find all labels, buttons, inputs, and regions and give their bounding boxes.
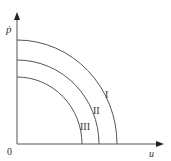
curve-label-II: II bbox=[93, 105, 100, 116]
curve-I bbox=[17, 40, 117, 144]
y-axis-arrow-icon bbox=[14, 12, 20, 20]
diagram-canvas: ṗ u 0 I II III bbox=[0, 0, 171, 161]
curve-III bbox=[17, 77, 82, 144]
curve-label-I: I bbox=[105, 89, 108, 100]
curve-label-III: III bbox=[80, 121, 90, 132]
x-axis-arrow-icon bbox=[156, 141, 164, 147]
x-axis-label: u bbox=[149, 148, 154, 159]
origin-label: 0 bbox=[7, 146, 12, 157]
diagram-svg: ṗ u 0 I II III bbox=[0, 0, 171, 161]
y-axis-label: ṗ bbox=[5, 23, 12, 35]
